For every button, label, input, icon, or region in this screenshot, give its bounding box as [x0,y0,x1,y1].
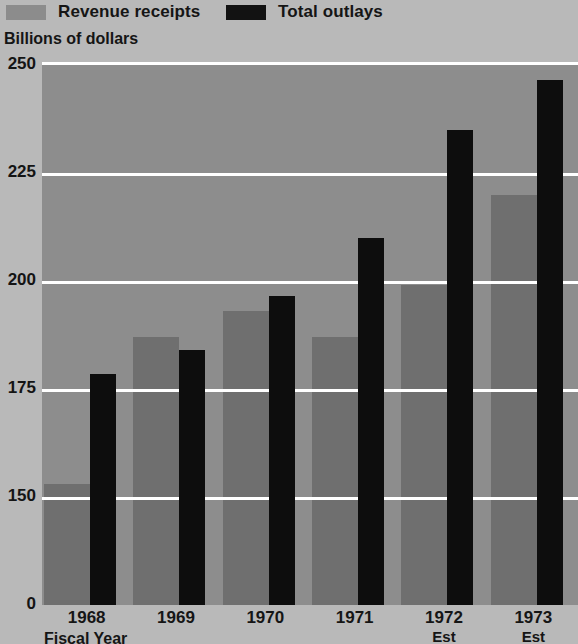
plot-area [42,65,578,605]
bar-revenue-receipts-1970 [223,311,269,605]
gridline-150 [42,497,578,500]
x-label-year: 1970 [221,608,310,628]
y-tick-label-150: 150 [0,486,36,506]
x-label-1970: 1970 [221,608,310,628]
x-label-1973: 1973Est [489,608,578,644]
gridline-175 [42,389,578,392]
x-label-estimate-note: Est [489,628,578,644]
bar-total-outlays-1969 [179,350,205,605]
y-tick-label-200: 200 [0,270,36,290]
bar-revenue-receipts-1972 [401,285,447,605]
x-label-1969: 1969 [131,608,220,628]
x-label-year: 1968 [42,608,131,628]
bar-total-outlays-1968 [90,374,116,605]
gridline-225 [42,173,578,176]
x-label-estimate-note: Est [399,628,488,644]
bar-revenue-receipts-1968 [44,484,90,605]
bar-total-outlays-1972 [447,130,473,605]
y-tick-label-250: 250 [0,54,36,74]
gridline-200 [42,281,578,284]
x-label-year: 1972 [399,608,488,628]
y-tick-label-225: 225 [0,162,36,182]
x-label-1968: 1968 [42,608,131,628]
x-label-1972: 1972Est [399,608,488,644]
bar-revenue-receipts-1971 [312,337,358,605]
bar-revenue-receipts-1969 [133,337,179,605]
bar-total-outlays-1971 [358,238,384,605]
x-label-year: 1969 [131,608,220,628]
y-tick-label-175: 175 [0,378,36,398]
bar-total-outlays-1970 [269,296,295,605]
x-label-year: 1973 [489,608,578,628]
x-axis-title: Fiscal Year [44,630,127,644]
bar-revenue-receipts-1973 [491,195,537,605]
y-tick-label-0: 0 [0,594,36,614]
x-label-1971: 1971 [310,608,399,628]
x-label-year: 1971 [310,608,399,628]
bar-total-outlays-1973 [537,80,563,605]
chart-plot: Fiscal Year 19681969197019711972Est1973E… [0,0,578,644]
